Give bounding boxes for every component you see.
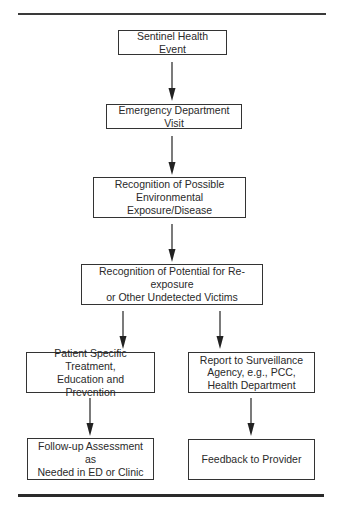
- node-label-line3: Health Department: [207, 379, 295, 392]
- node-label: Emergency Department Visit: [111, 104, 237, 130]
- node-label-line2: Agency, e.g., PCC,: [207, 366, 296, 379]
- arrowhead-icon: [248, 423, 255, 436]
- node-emergency-department-visit: Emergency Department Visit: [106, 104, 242, 129]
- node-label-line2: Needed in ED or Clinic: [37, 466, 143, 479]
- connector-arrows: [0, 0, 337, 508]
- bottom-rule: [18, 494, 324, 497]
- node-recognition-possible-exposure: Recognition of Possible Environmental Ex…: [93, 177, 246, 218]
- arrowhead-icon: [87, 423, 94, 436]
- node-label-line2: Environmental Exposure/Disease: [98, 191, 241, 217]
- node-label-line1: Report to Surveillance: [200, 354, 303, 367]
- node-label-line1: Follow-up Assessment as: [32, 440, 149, 466]
- arrowhead-icon: [169, 88, 176, 101]
- arrowhead-icon: [217, 336, 224, 349]
- node-follow-up-assessment: Follow-up Assessment as Needed in ED or …: [27, 438, 154, 480]
- node-label-line1: Recognition of Potential for Re-exposure: [86, 265, 258, 291]
- arrowhead-icon: [169, 162, 176, 175]
- node-label-line1: Recognition of Possible: [115, 178, 225, 191]
- node-label: Feedback to Provider: [202, 453, 302, 466]
- node-label: Sentinel Health Event: [123, 30, 222, 56]
- arrowhead-icon: [169, 249, 176, 262]
- node-feedback-to-provider: Feedback to Provider: [188, 439, 315, 480]
- node-sentinel-health-event: Sentinel Health Event: [118, 30, 227, 55]
- node-report-to-surveillance: Report to Surveillance Agency, e.g., PCC…: [188, 352, 315, 393]
- node-patient-specific-treatment: Patient Specific Treatment, Education an…: [26, 352, 155, 393]
- node-label-line2: Education and Prevention: [31, 373, 150, 399]
- node-label-line2: or Other Undetected Victims: [106, 291, 238, 304]
- node-recognition-reexposure: Recognition of Potential for Re-exposure…: [81, 264, 263, 305]
- node-label-line1: Patient Specific Treatment,: [31, 347, 150, 373]
